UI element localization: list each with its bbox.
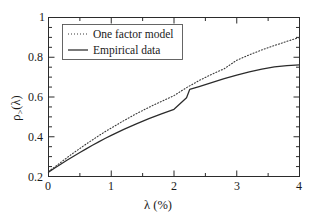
- chart-figure: One factor model Empirical data 0.2 0.4 …: [0, 0, 316, 219]
- x-tick-label-4: 4: [296, 179, 302, 194]
- legend-label-empirical-data: Empirical data: [93, 44, 160, 56]
- y-axis-title-arg: (λ): [9, 95, 23, 109]
- x-tick-label-0: 0: [45, 179, 51, 194]
- x-tick-label-3: 3: [234, 179, 240, 194]
- y-tick-label-2: 0.6: [28, 90, 43, 105]
- y-tick-label-0: 0.2: [28, 170, 43, 185]
- y-axis-title-rho: ρ: [9, 114, 23, 120]
- series-empirical-data: [49, 65, 300, 172]
- y-tick-label-3: 0.8: [28, 50, 43, 65]
- x-axis-title: λ (%): [0, 198, 316, 213]
- y-axis-title-text: ρ>(λ): [9, 95, 24, 120]
- y-axis-title: ρ>(λ): [6, 78, 28, 138]
- x-tick-label-1: 1: [108, 179, 114, 194]
- x-tick-label-2: 2: [171, 179, 177, 194]
- y-axis-title-subscript: >: [15, 110, 25, 115]
- legend-label-one-factor-model: One factor model: [93, 28, 173, 40]
- y-tick-label-4: 1: [39, 10, 45, 25]
- y-tick-label-1: 0.4: [28, 130, 43, 145]
